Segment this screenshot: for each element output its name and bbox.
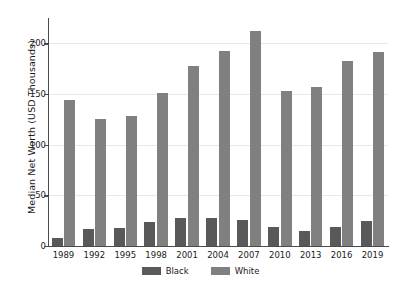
bar-black-1998 bbox=[144, 222, 155, 246]
bar-white-1995 bbox=[126, 116, 137, 246]
y-tick-mark bbox=[44, 195, 48, 196]
bars-layer bbox=[48, 18, 388, 246]
bar-group bbox=[268, 18, 292, 246]
y-tick-label: 150 bbox=[0, 88, 46, 100]
x-tick-label: 1989 bbox=[48, 250, 79, 262]
legend-entry-white[interactable]: White bbox=[211, 266, 260, 276]
chart-legend: BlackWhite bbox=[0, 266, 401, 276]
bar-white-2019 bbox=[373, 52, 384, 246]
bar-black-2019 bbox=[361, 221, 372, 246]
x-tick-label: 2013 bbox=[295, 250, 326, 262]
bar-white-2010 bbox=[281, 91, 292, 246]
x-tick-label: 1992 bbox=[79, 250, 110, 262]
y-tick-mark bbox=[44, 43, 48, 44]
bar-group bbox=[237, 18, 261, 246]
legend-swatch-black bbox=[142, 267, 161, 275]
x-axis-line bbox=[48, 246, 389, 247]
legend-label-white: White bbox=[235, 266, 260, 276]
x-tick-label: 2007 bbox=[233, 250, 264, 262]
legend-swatch-white bbox=[211, 267, 230, 275]
y-tick-mark bbox=[44, 145, 48, 146]
y-tick-label: 50 bbox=[0, 189, 46, 201]
x-tick-label: 2016 bbox=[326, 250, 357, 262]
y-tick-label: 200 bbox=[0, 37, 46, 49]
bar-group bbox=[206, 18, 230, 246]
y-tick-mark bbox=[44, 246, 48, 247]
bar-group bbox=[144, 18, 168, 246]
legend-entry-black[interactable]: Black bbox=[142, 266, 189, 276]
bar-group bbox=[83, 18, 107, 246]
bar-black-2007 bbox=[237, 220, 248, 246]
bar-chart: Median Net Worth (USD Thousands) BlackWh… bbox=[0, 0, 401, 295]
bar-black-1992 bbox=[83, 229, 94, 246]
x-tick-label: 2019 bbox=[357, 250, 388, 262]
bar-group bbox=[361, 18, 385, 246]
bar-black-2013 bbox=[299, 231, 310, 246]
x-tick-label: 2001 bbox=[172, 250, 203, 262]
bar-group bbox=[52, 18, 76, 246]
bar-white-2013 bbox=[311, 87, 322, 246]
y-tick-mark bbox=[44, 94, 48, 95]
bar-group bbox=[114, 18, 138, 246]
bar-white-2004 bbox=[219, 51, 230, 246]
bar-black-2010 bbox=[268, 227, 279, 246]
bar-white-2001 bbox=[188, 66, 199, 246]
bar-group bbox=[175, 18, 199, 246]
bar-white-1992 bbox=[95, 119, 106, 246]
bar-black-1989 bbox=[52, 238, 63, 246]
y-tick-label: 100 bbox=[0, 139, 46, 151]
y-tick-label: 0 bbox=[0, 240, 46, 252]
legend-label-black: Black bbox=[166, 266, 189, 276]
bar-white-2007 bbox=[250, 31, 261, 246]
bar-black-2001 bbox=[175, 218, 186, 246]
x-tick-label: 1995 bbox=[110, 250, 141, 262]
bar-white-2016 bbox=[342, 61, 353, 246]
x-tick-label: 1998 bbox=[141, 250, 172, 262]
x-tick-label: 2004 bbox=[203, 250, 234, 262]
bar-group bbox=[330, 18, 354, 246]
x-tick-label: 2010 bbox=[264, 250, 295, 262]
bar-white-1998 bbox=[157, 93, 168, 246]
bar-group bbox=[299, 18, 323, 246]
bar-white-1989 bbox=[64, 100, 75, 246]
bar-black-2016 bbox=[330, 227, 341, 246]
bar-black-1995 bbox=[114, 228, 125, 246]
bar-black-2004 bbox=[206, 218, 217, 246]
